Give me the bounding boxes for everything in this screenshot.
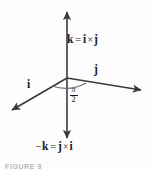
figure-caption: FIGURE 8 (5, 163, 42, 169)
k-cross-operator: × (86, 35, 94, 45)
angle-denominator: 2 (67, 96, 80, 104)
angle-label-pi-over-two: π 2 (67, 86, 80, 105)
label-k-equals-i-cross-j: k=i×j (67, 34, 98, 46)
vector-axes-figure: k=i×j −k=j×i i j π 2 FIGURE 8 (0, 0, 151, 171)
k-cross-lhs: k (67, 33, 74, 45)
angle-numerator: π (67, 86, 80, 94)
label-neg-k-equals-j-cross-i: −k=j×i (35, 141, 73, 153)
axis-label-i: i (27, 79, 30, 91)
axis-label-j: j (94, 64, 98, 76)
neg-k-minus-sign: − (35, 140, 42, 152)
axis-i-line (12, 78, 67, 110)
neg-k-lhs: k (42, 140, 49, 152)
neg-k-equals: = (49, 140, 58, 152)
neg-k-cross-operator: × (62, 142, 70, 152)
k-cross-equals: = (74, 33, 83, 45)
neg-k-right-factor: i (70, 140, 73, 152)
k-cross-right-factor: j (94, 33, 98, 45)
